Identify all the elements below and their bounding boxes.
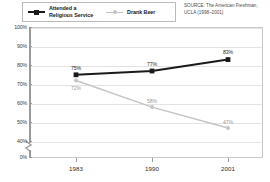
y-axis-label-40: 40% xyxy=(3,138,27,144)
y-axis-label-50: 50% xyxy=(3,119,27,125)
y-tick xyxy=(29,46,32,47)
x-axis-label-2001: 2001 xyxy=(208,165,248,172)
y-axis-label-80: 80% xyxy=(3,62,27,68)
y-tick xyxy=(29,27,32,28)
legend-item-label: Drank Beer xyxy=(127,9,155,16)
data-label-drank-beer-1990: 58% xyxy=(135,98,169,104)
y-tick xyxy=(29,65,32,66)
data-label-attended-1983: 75% xyxy=(59,65,93,71)
gridline-60 xyxy=(29,104,262,105)
legend-item-attended-religious-service: Attended a Religious Service xyxy=(28,3,93,21)
plot-area xyxy=(29,27,263,158)
y-axis-label-90: 90% xyxy=(3,43,27,49)
y-tick xyxy=(29,157,32,158)
source-note: SOURCE: The American Freshman, UCLA (199… xyxy=(184,3,268,16)
legend-item-drank-beer: Drank Beer xyxy=(106,3,155,21)
y-axis-spine xyxy=(29,27,31,143)
gridline-40 xyxy=(29,142,262,143)
data-label-attended-2001: 83% xyxy=(211,49,245,55)
legend-item-label: Attended a Religious Service xyxy=(49,5,93,18)
data-label-attended-1990: 77% xyxy=(135,61,169,67)
y-axis-label-100: 100% xyxy=(3,24,27,30)
x-tick xyxy=(228,158,229,162)
x-tick xyxy=(76,158,77,162)
y-tick xyxy=(29,141,32,142)
chart-container: Attended a Religious Service Drank Beer … xyxy=(0,0,270,182)
circle-marker-light-icon xyxy=(106,8,123,17)
data-label-drank-beer-2001: 47% xyxy=(211,119,245,125)
y-tick xyxy=(29,103,32,104)
x-axis-label-1983: 1983 xyxy=(56,165,96,172)
y-tick xyxy=(29,122,32,123)
data-label-drank-beer-1983: 72% xyxy=(59,85,93,91)
y-axis-label-70: 70% xyxy=(3,81,27,87)
gridline-90 xyxy=(29,47,262,48)
x-axis-label-1990: 1990 xyxy=(132,165,172,172)
gridline-100 xyxy=(29,28,262,29)
y-tick xyxy=(29,84,32,85)
square-marker-dark-icon xyxy=(28,8,45,17)
y-axis-label-0: 0% xyxy=(3,154,27,160)
y-axis-label-60: 60% xyxy=(3,100,27,106)
x-tick xyxy=(152,158,153,162)
chart-legend: Attended a Religious Service Drank Beer xyxy=(22,2,176,22)
